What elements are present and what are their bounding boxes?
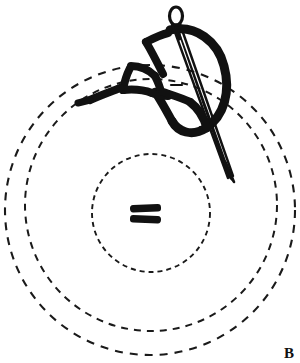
center-bar-upper bbox=[130, 204, 161, 213]
thread-left-tail bbox=[90, 88, 120, 100]
thread-front-cross bbox=[163, 92, 190, 102]
central-double-bar-marker bbox=[130, 204, 161, 224]
inner-ring bbox=[92, 154, 210, 272]
illustration-canvas bbox=[0, 0, 300, 363]
figure-panel: B bbox=[0, 0, 300, 363]
thread-left-tail-end bbox=[78, 100, 90, 103]
center-bar-lower bbox=[130, 215, 161, 224]
panel-label: B bbox=[284, 346, 294, 361]
thread-knot-stroke-d bbox=[123, 90, 152, 93]
needle-eye bbox=[170, 7, 183, 25]
